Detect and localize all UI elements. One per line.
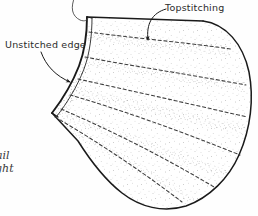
caption-fragment-line-1: ail xyxy=(0,149,10,162)
illustration-page: Topstitching Unstitched edge ail ght xyxy=(0,0,258,216)
label-topstitching: Topstitching xyxy=(165,2,224,13)
unstitched-edge-leader-arrow xyxy=(41,52,70,82)
label-unstitched-edge: Unstitched edge xyxy=(5,39,86,50)
quilted-panel-figure xyxy=(0,0,258,216)
top-leader-line xyxy=(72,0,88,21)
caption-fragment-line-2: ght xyxy=(0,162,14,175)
